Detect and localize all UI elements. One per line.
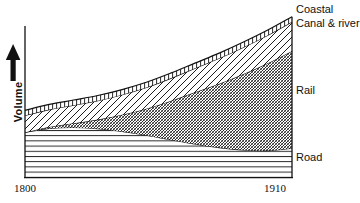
series-label-road: Road xyxy=(296,152,322,163)
y-axis-title: Volume xyxy=(12,72,24,132)
x-tick-1800: 1800 xyxy=(14,183,36,194)
series-label-coastal: Coastal xyxy=(296,4,333,15)
x-tick-1910: 1910 xyxy=(264,183,286,194)
series-label-canal-river: Canal & river xyxy=(296,18,360,29)
series-label-rail: Rail xyxy=(296,85,315,96)
